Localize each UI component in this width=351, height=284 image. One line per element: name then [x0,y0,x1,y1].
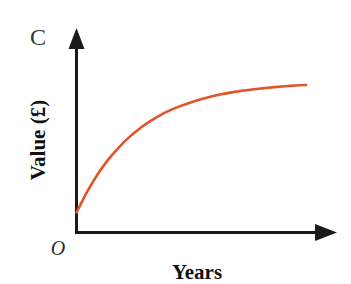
origin-label: O [51,238,65,258]
part-label: C [30,25,46,49]
x-axis-title: Years [172,262,222,283]
y-axis-title: Value (£) [28,100,49,180]
x-axis-arrowhead-icon [315,224,337,241]
graph-figure: C Value (£) Years O [0,0,351,284]
value-curve [77,85,307,213]
y-axis-arrowhead-icon [69,28,85,49]
